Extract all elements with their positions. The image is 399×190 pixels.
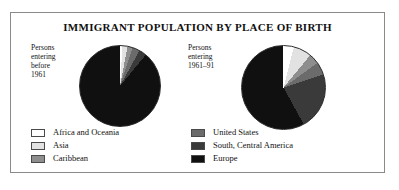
caption-right-line-3: 1961–91: [188, 61, 246, 70]
legend-swatch-united-states: [191, 129, 205, 137]
legend-swatch-south-central-america: [191, 142, 205, 150]
legend-swatch-caribbean: [31, 155, 45, 163]
legend-item-united-states[interactable]: United States: [191, 127, 293, 139]
legend-swatch-africa-and-oceania: [31, 129, 45, 137]
legend-item-south-central-america[interactable]: South, Central America: [191, 140, 293, 152]
legend-label-united-states: United States: [213, 127, 259, 139]
legend-label-asia: Asia: [53, 140, 69, 152]
caption-left-line-1: Persons: [31, 43, 89, 52]
pie-chart-1961-91: [241, 45, 326, 130]
figure-frame: IMMIGRANT POPULATION BY PLACE OF BIRTH P…: [10, 12, 385, 173]
legend-label-europe: Europe: [213, 153, 238, 165]
page-title: IMMIGRANT POPULATION BY PLACE OF BIRTH: [11, 21, 384, 33]
legend-label-africa-and-oceania: Africa and Oceania: [53, 127, 119, 139]
legend-column-left: Africa and Oceania Asia Caribbean: [31, 127, 119, 166]
legend-item-asia[interactable]: Asia: [31, 140, 119, 152]
caption-right-line-1: Persons: [188, 43, 246, 52]
caption-right-pie: Persons entering 1961–91: [188, 43, 246, 70]
legend-item-africa-and-oceania[interactable]: Africa and Oceania: [31, 127, 119, 139]
legend-label-caribbean: Caribbean: [53, 153, 88, 165]
legend-label-south-central-america: South, Central America: [213, 140, 293, 152]
legend-swatch-asia: [31, 142, 45, 150]
caption-right-line-2: entering: [188, 52, 246, 61]
caption-left-line-2: entering: [31, 52, 89, 61]
legend-swatch-europe: [191, 155, 205, 163]
legend-column-right: United States South, Central America Eur…: [191, 127, 293, 166]
legend-item-europe[interactable]: Europe: [191, 153, 293, 165]
pie-chart-before-1961: [79, 45, 161, 127]
caption-left-line-3: before: [31, 61, 89, 70]
legend-item-caribbean[interactable]: Caribbean: [31, 153, 119, 165]
